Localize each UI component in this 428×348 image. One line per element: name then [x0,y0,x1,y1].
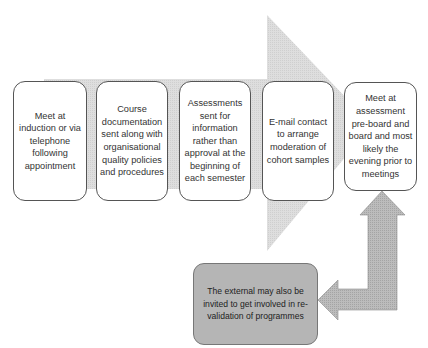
process-diagram: Meet at induction or via telephone follo… [0,0,428,348]
side-note-box: The external may also be invited to get … [193,263,318,345]
bent-return-arrow [318,191,405,320]
step-box-2: Course documentation sent along with org… [96,81,168,201]
step-box-4: E-mail contact to arrange moderation of … [262,81,334,201]
step-box-1: Meet at induction or via telephone follo… [13,81,87,201]
step-label-3: Assessments sent for information rather … [183,97,247,185]
side-note-label: The external may also be invited to get … [200,285,311,323]
step-label-5: Meet at assessment pre-board and board a… [348,92,413,180]
step-label-1: Meet at induction or via telephone follo… [17,110,83,173]
step-box-3: Assessments sent for information rather … [179,81,251,201]
step-label-2: Course documentation sent along with org… [100,103,164,179]
step-label-4: E-mail contact to arrange moderation of … [266,116,330,166]
step-box-5: Meet at assessment pre-board and board a… [344,82,417,191]
